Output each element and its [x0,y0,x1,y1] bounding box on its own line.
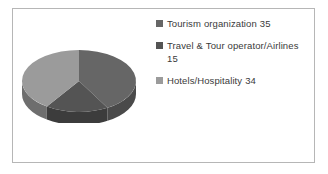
plot-area: Tourism organization 35 Travel & Tour op… [13,9,314,162]
legend-swatch-icon [156,42,163,49]
legend-item[interactable]: Travel & Tour operator/Airlines 15 [156,39,311,65]
pie-chart-3d [21,23,161,123]
legend-swatch-icon [156,20,163,27]
legend-item-label: Hotels/Hospitality 34 [167,74,256,87]
legend-item[interactable]: Tourism organization 35 [156,17,311,30]
legend-item-label: Tourism organization 35 [167,17,271,30]
chart-frame: Tourism organization 35 Travel & Tour op… [12,8,315,163]
pie-chart-svg [21,23,161,123]
legend-swatch-icon [156,77,163,84]
pie-top-surface [22,50,136,112]
chart-legend: Tourism organization 35 Travel & Tour op… [156,17,311,96]
legend-item-label: Travel & Tour operator/Airlines 15 [167,39,311,65]
legend-item[interactable]: Hotels/Hospitality 34 [156,74,311,87]
